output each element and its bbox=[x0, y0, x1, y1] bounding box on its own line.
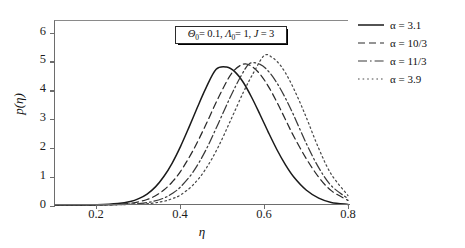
y-tick: 3 bbox=[50, 119, 55, 120]
y-tick: 2 bbox=[50, 148, 55, 149]
curve-series-1 bbox=[55, 64, 348, 205]
legend-item-0[interactable]: α = 3.1 bbox=[358, 18, 462, 32]
y-tick-label: 6 bbox=[40, 25, 46, 38]
legend-item-3[interactable]: α = 3.9 bbox=[358, 72, 462, 86]
annotation-text: Θ0= 0.1, Λ0= 1, J = 3 bbox=[188, 28, 274, 42]
legend-item-label: α = 3.1 bbox=[390, 19, 421, 31]
legend-line-swatch bbox=[358, 38, 384, 48]
lambda-value: 1 bbox=[243, 28, 248, 39]
y-axis-title: p(η) bbox=[11, 93, 27, 115]
legend-item-label: α = 10/3 bbox=[390, 37, 427, 49]
annotation-box: Θ0= 0.1, Λ0= 1, J = 3 bbox=[175, 26, 287, 44]
legend-item-label: α = 3.9 bbox=[390, 73, 421, 85]
x-tick-label: 0.8 bbox=[340, 208, 356, 221]
theta-subscript: 0 bbox=[195, 33, 199, 42]
y-tick-label: 5 bbox=[40, 53, 46, 66]
y-tick: 6 bbox=[50, 33, 55, 34]
legend-line-swatch bbox=[358, 56, 384, 66]
curve-series-3 bbox=[55, 55, 348, 205]
curves-layer bbox=[55, 21, 348, 205]
figure-chart-p-eta: p(η) 0123456 Θ0= 0.1, Λ0= 1, J = 3 η α =… bbox=[0, 0, 465, 248]
x-tick-label: 0.6 bbox=[256, 208, 272, 221]
lambda-subscript: 0 bbox=[231, 33, 235, 42]
legend-item-1[interactable]: α = 10/3 bbox=[358, 36, 462, 50]
legend-line-swatch bbox=[358, 20, 384, 30]
y-tick-label: 0 bbox=[40, 198, 46, 211]
j-value: 3 bbox=[269, 28, 274, 39]
y-tick: 1 bbox=[50, 177, 55, 178]
y-tick-label: 4 bbox=[40, 82, 46, 95]
y-tick-label: 2 bbox=[40, 140, 46, 153]
y-tick-label: 3 bbox=[40, 111, 46, 124]
curve-series-0 bbox=[55, 67, 348, 205]
x-axis-title: η bbox=[0, 224, 404, 240]
legend-item-label: α = 11/3 bbox=[390, 55, 427, 67]
x-tick-label: 0.4 bbox=[172, 208, 188, 221]
y-tick: 4 bbox=[50, 90, 55, 91]
legend: α = 3.1α = 10/3α = 11/3α = 3.9 bbox=[358, 18, 462, 90]
j-symbol: J bbox=[254, 28, 259, 39]
annotation-parameters: Θ0= 0.1, Λ0= 1, J = 3 bbox=[175, 26, 287, 44]
x-tick-label: 0.2 bbox=[88, 208, 104, 221]
plot-area: 0123456 bbox=[54, 20, 348, 205]
legend-item-2[interactable]: α = 11/3 bbox=[358, 54, 462, 68]
legend-line-swatch bbox=[358, 74, 384, 84]
y-tick-label: 1 bbox=[40, 169, 46, 182]
theta-value: 0.1 bbox=[207, 28, 220, 39]
y-tick: 5 bbox=[50, 61, 55, 62]
x-axis-line bbox=[54, 204, 350, 205]
y-tick: 0 bbox=[50, 206, 55, 207]
